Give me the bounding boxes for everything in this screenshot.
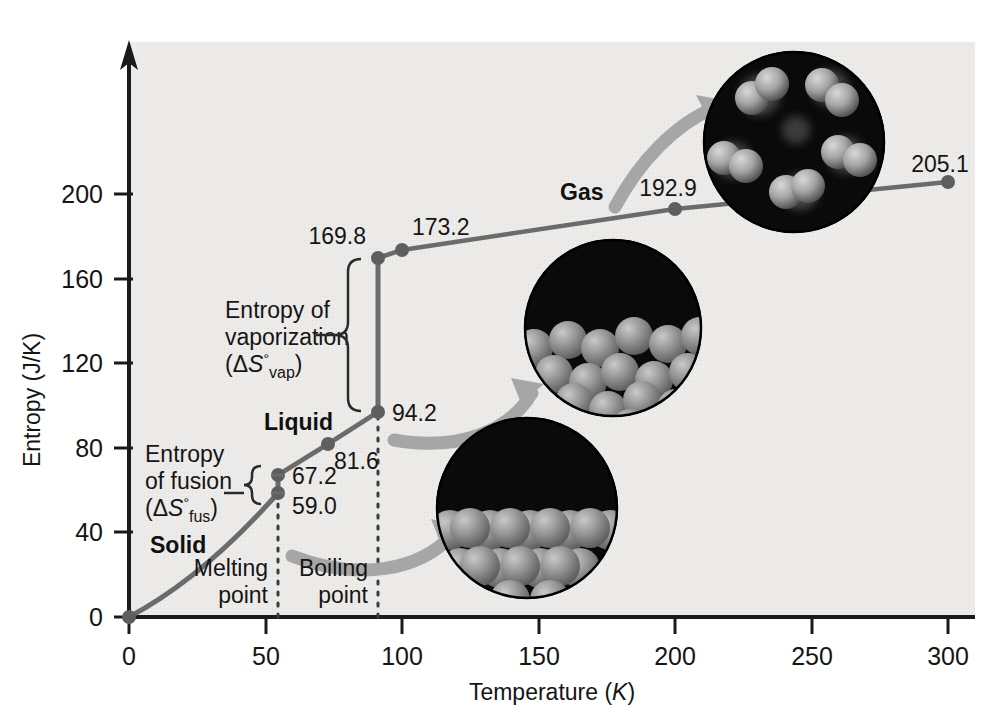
x-tick-label-100: 100 [381, 642, 423, 670]
x-tick-label-0: 0 [122, 642, 136, 670]
phase-label-liquid: Liquid [264, 409, 333, 435]
melting-point-line-2: point [218, 582, 268, 608]
vaporization-line-2: vaporization [225, 324, 349, 350]
chart-svg: 0 40 80 120 160 200 0 50 100 150 200 250… [0, 0, 996, 707]
value-label-205-1: 205.1 [911, 151, 969, 177]
value-label-173-2: 173.2 [412, 214, 470, 240]
gas-inset [704, 52, 884, 232]
fusion-line-1: Entropy [145, 441, 225, 467]
value-label-169-8: 169.8 [308, 223, 366, 249]
svg-text:Temperature (K): Temperature (K) [469, 679, 635, 705]
boiling-point-line-1: Boiling [299, 555, 368, 581]
y-tick-label-200: 200 [61, 180, 103, 208]
data-point-173-2 [395, 243, 409, 257]
data-point-origin [122, 610, 136, 624]
fusion-line-2: of fusion [145, 468, 232, 494]
melting-point-line-1: Melting [194, 555, 268, 581]
data-point-81-6 [321, 437, 335, 451]
x-tick-label-50: 50 [252, 642, 280, 670]
x-tick-label-250: 250 [791, 642, 833, 670]
data-point-205-1 [941, 175, 955, 189]
y-tick-label-120: 120 [61, 349, 103, 377]
vaporization-line-1: Entropy of [225, 297, 330, 323]
value-label-94-2: 94.2 [392, 400, 437, 426]
y-tick-label-0: 0 [89, 603, 103, 631]
x-axis-title-suffix: ) [627, 679, 635, 705]
data-point-169-8 [371, 251, 385, 265]
value-label-67-2: 67.2 [292, 463, 337, 489]
x-tick-label-200: 200 [654, 642, 696, 670]
x-axis-title: Temperature (K) [469, 679, 635, 705]
y-tick-label-160: 160 [61, 265, 103, 293]
y-axis-title: Entropy (J/K) [19, 333, 45, 467]
value-label-81-6: 81.6 [334, 448, 379, 474]
data-point-192-9 [668, 202, 682, 216]
x-tick-label-300: 300 [927, 642, 969, 670]
y-tick-label-80: 80 [75, 434, 103, 462]
x-tick-label-150: 150 [518, 642, 560, 670]
phase-label-gas: Gas [560, 179, 603, 205]
boiling-point-line-2: point [318, 582, 368, 608]
entropy-temperature-figure: 0 40 80 120 160 200 0 50 100 150 200 250… [0, 0, 996, 707]
x-axis-title-prefix: Temperature ( [469, 679, 613, 705]
y-tick-label-40: 40 [75, 518, 103, 546]
value-label-192-9: 192.9 [639, 175, 697, 201]
data-point-94-2 [371, 405, 385, 419]
value-label-59-0: 59.0 [292, 493, 337, 519]
